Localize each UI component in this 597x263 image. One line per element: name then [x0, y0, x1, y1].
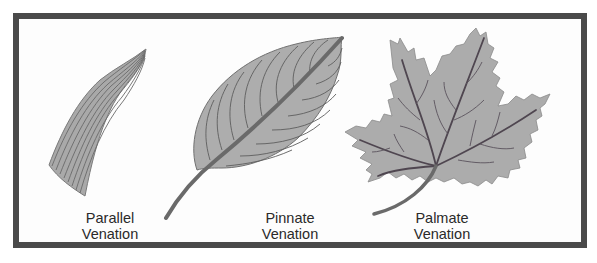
pinnate-venation-leaf: [166, 37, 342, 218]
palmate-venation-leaf: [345, 28, 550, 214]
parallel-venation-label: Parallel Venation: [55, 210, 165, 242]
label-line-2: Venation: [55, 226, 165, 242]
pinnate-venation-label: Pinnate Venation: [235, 210, 345, 242]
parallel-venation-leaf: [49, 49, 146, 196]
label-line-2: Venation: [235, 226, 345, 242]
label-line-1: Pinnate: [235, 210, 345, 226]
palmate-venation-label: Palmate Venation: [387, 210, 497, 242]
label-line-1: Palmate: [387, 210, 497, 226]
cropped-caption-fragment: [90, 257, 530, 263]
label-line-1: Parallel: [55, 210, 165, 226]
label-line-2: Venation: [387, 226, 497, 242]
